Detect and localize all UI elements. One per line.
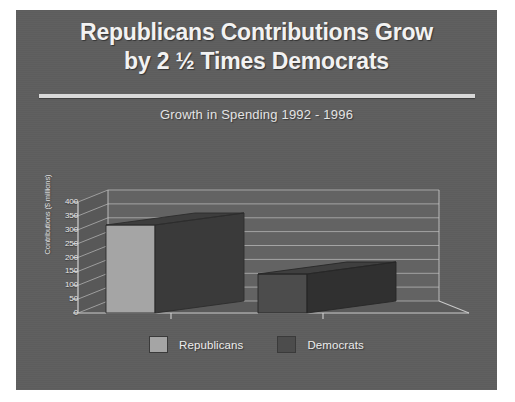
bar-democrats-front [258, 274, 307, 313]
legend-item-democrats[interactable]: Democrats [277, 336, 364, 353]
slide-title: Republicans Contributions Grow by 2 ½ Ti… [16, 18, 497, 76]
title-divider-rule [39, 94, 475, 98]
legend-swatch-republicans-icon [149, 336, 168, 353]
legend-label-democrats: Democrats [307, 339, 364, 351]
plot-svg [46, 136, 476, 346]
bar-republicans-front [106, 225, 155, 313]
chart-legend: Republicans Democrats [16, 336, 497, 353]
bar-republicans-side [155, 213, 244, 313]
legend-swatch-democrats-icon [277, 336, 296, 353]
x-axis-ticks [171, 313, 323, 319]
plot-area [46, 136, 476, 346]
title-line-2: by 2 ½ Times Democrats [16, 47, 497, 76]
legend-label-republicans: Republicans [179, 339, 243, 351]
bar-chart: 400350300250200150100500 Contributions (… [16, 136, 497, 390]
slide-canvas: Republicans Contributions Grow by 2 ½ Ti… [16, 10, 497, 390]
title-line-1: Republicans Contributions Grow [16, 18, 497, 47]
legend-item-republicans[interactable]: Republicans [149, 336, 243, 353]
bar-republicans[interactable] [106, 213, 244, 313]
y-axis-ticks [73, 202, 78, 313]
chart-subtitle: Growth in Spending 1992 - 1996 [16, 107, 497, 122]
